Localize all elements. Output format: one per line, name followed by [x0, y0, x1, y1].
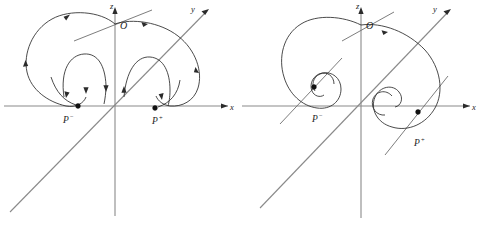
trajectory-right-outer	[115, 21, 200, 106]
panel-left: z y x O P − P +	[0, 0, 242, 241]
fixed-point-p-plus-left	[153, 106, 158, 111]
point-label-p-minus-right: P −	[311, 112, 323, 124]
p-plus-base-left: P	[151, 116, 158, 126]
axis-label-x-right: x	[471, 102, 476, 112]
origin-label-right: O	[366, 20, 373, 31]
trajectory-left-inner-hook-minus	[63, 54, 106, 104]
flow-arrow-2	[23, 60, 28, 67]
fixed-point-p-minus-right	[312, 85, 317, 90]
origin-label-left: O	[120, 20, 127, 31]
p-minus-base-right: P	[311, 114, 318, 124]
fixed-point-p-plus-right	[416, 110, 421, 115]
axis-label-x-left: x	[229, 102, 234, 112]
axis-label-y-right: y	[432, 4, 437, 14]
trajectory-right-panel-outer-left	[282, 17, 361, 108]
flow-arrow-9	[159, 93, 164, 100]
p-minus-sup-right: −	[319, 112, 323, 119]
axis-label-z-left: z	[109, 1, 114, 11]
panel-right-diagram: z y x O P − P +	[242, 0, 484, 241]
spiral-inner-p-plus-right	[372, 92, 392, 115]
p-plus-base-right: P	[413, 138, 420, 148]
axis-label-z-right: z	[355, 1, 360, 11]
flow-arrow-right-panel-1	[382, 30, 389, 35]
fixed-point-p-minus-left	[76, 104, 81, 109]
z-axis-left	[112, 7, 117, 216]
p-minus-base-left: P	[62, 115, 69, 125]
p-plus-sup-right: +	[421, 136, 425, 143]
trajectory-left-outer	[26, 13, 115, 107]
flow-arrow-6	[121, 86, 126, 93]
flow-arrow-5	[103, 85, 108, 92]
p-plus-sup-left: +	[159, 114, 163, 121]
point-label-p-plus-right: P +	[413, 136, 425, 148]
eigendirection-p-minus-right	[280, 58, 342, 124]
panel-left-diagram: z y x O P − P +	[0, 0, 242, 241]
figure-root: z y x O P − P +	[0, 0, 484, 241]
p-minus-sup-left: −	[70, 113, 74, 120]
z-axis-right	[358, 7, 363, 218]
y-axis-left	[10, 9, 209, 212]
flow-arrow-1	[64, 15, 71, 21]
point-label-p-plus-left: P +	[151, 114, 163, 126]
axis-label-y-left: y	[190, 4, 195, 14]
point-label-p-minus-left: P −	[62, 113, 74, 125]
plane-trace-segment-left	[74, 10, 152, 41]
flow-arrow-7	[83, 87, 88, 94]
flow-arrow-8	[64, 91, 69, 98]
panel-right: z y x O P − P +	[242, 0, 484, 241]
trajectory-right-inner-hook-plus	[124, 57, 170, 106]
trajectory-right-panel-outer-right	[361, 24, 440, 128]
